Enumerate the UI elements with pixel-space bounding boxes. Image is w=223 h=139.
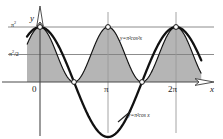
peak-at-two-pi bbox=[174, 25, 179, 30]
x-tick-two-pi: 2π bbox=[168, 85, 177, 94]
y-axis-label: y bbox=[30, 14, 34, 23]
y-tick-half-pi-squared: π2/2 bbox=[9, 51, 19, 57]
peak-at-pi bbox=[106, 25, 111, 30]
x-tick-zero: 0 bbox=[32, 85, 37, 94]
x-tick-pi: π bbox=[104, 85, 109, 94]
peak-at-0 bbox=[38, 25, 43, 30]
y-tick-pi-squared: π2 bbox=[11, 22, 16, 28]
figure-trig-graph: y x π2 π2/2 0 π 2π y=π²cos²x y=π²cos x bbox=[0, 0, 223, 139]
cos-squared-curve-label: y=π²cos²x bbox=[120, 36, 142, 42]
cos-curve-label: y=π²cos x bbox=[128, 113, 150, 119]
zero-at-half-pi bbox=[72, 80, 77, 85]
zero-at-three-half-pi bbox=[140, 80, 145, 85]
x-axis-label: x bbox=[210, 85, 214, 94]
